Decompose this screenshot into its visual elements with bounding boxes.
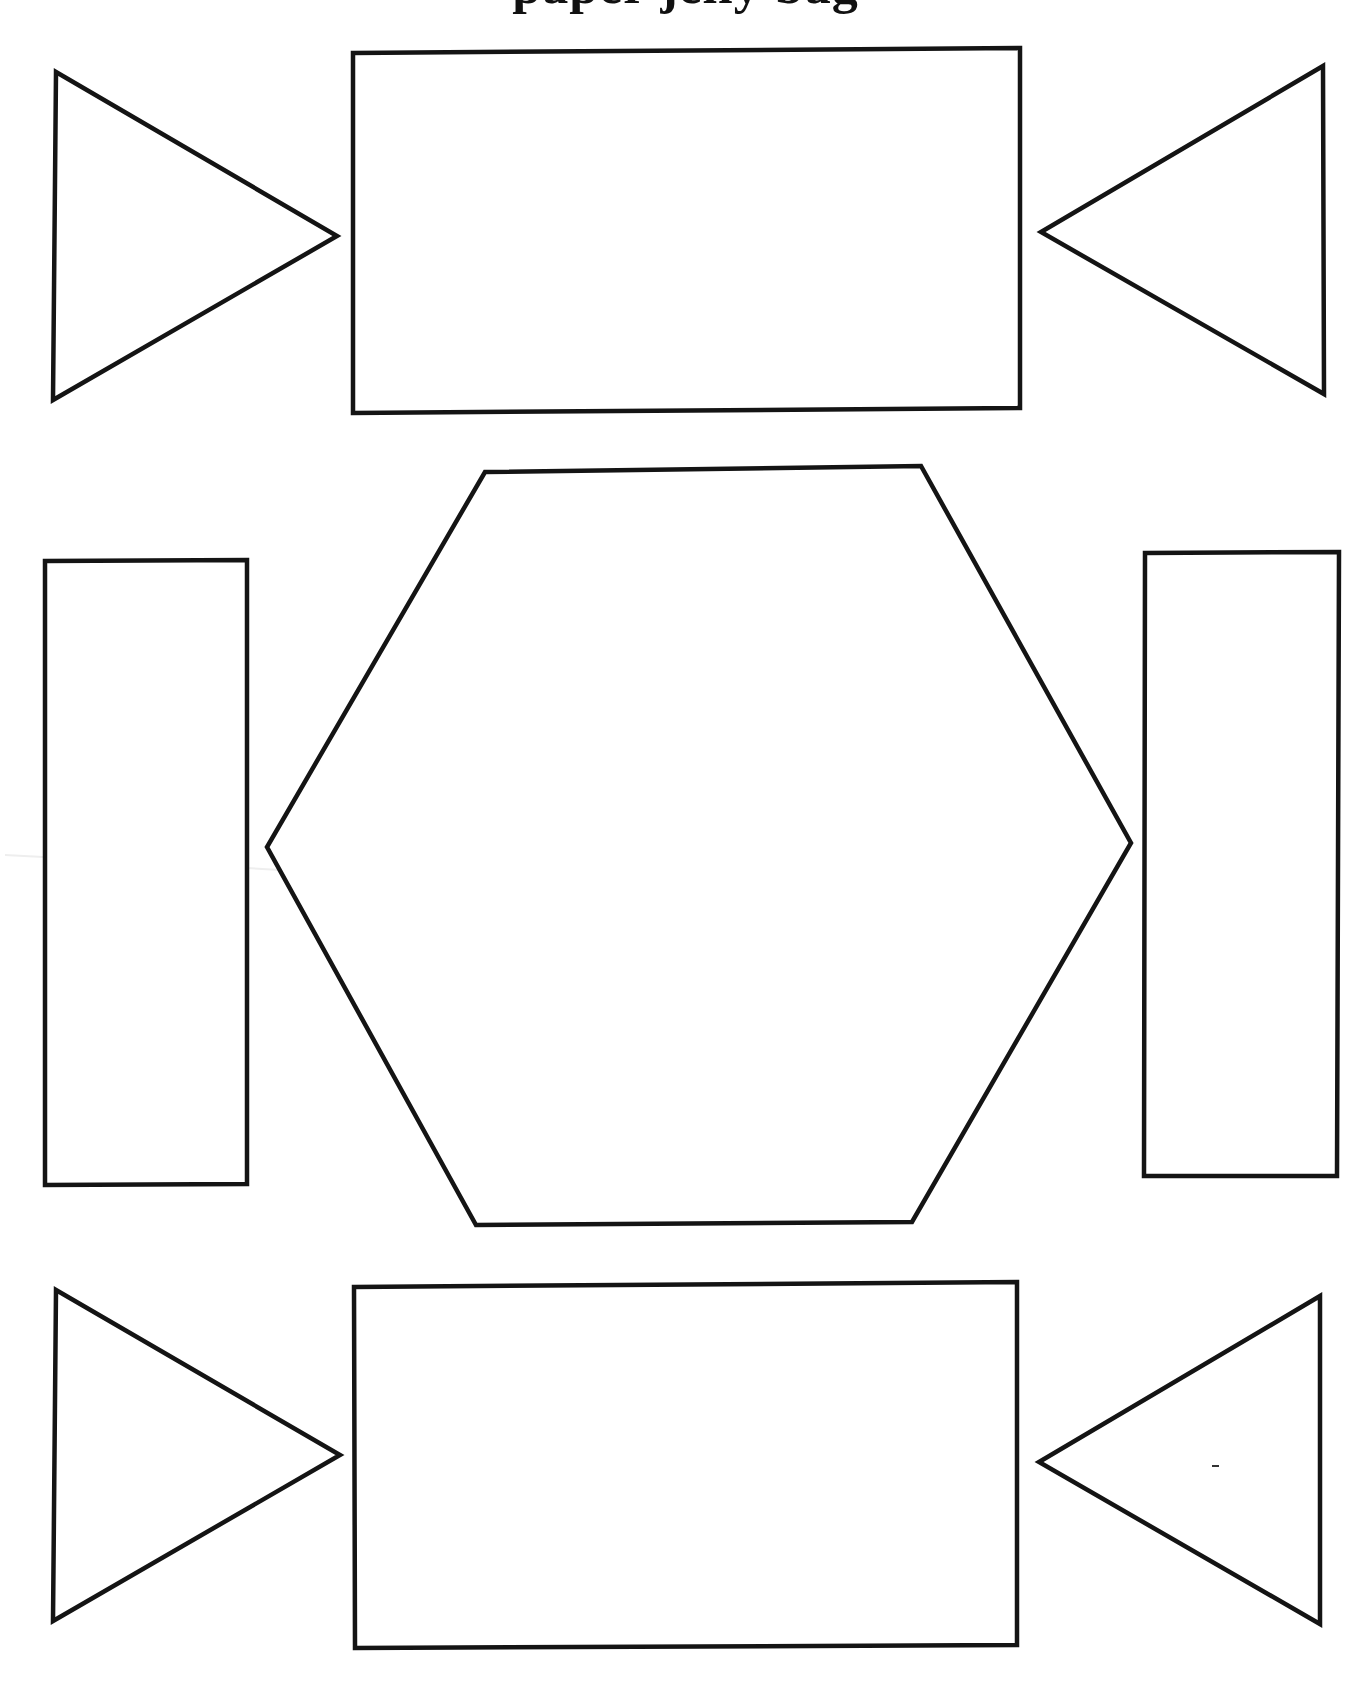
template-sheet — [0, 0, 1371, 1681]
bottom-left-triangle — [53, 1290, 340, 1621]
right-rectangle — [1144, 552, 1339, 1176]
center-hexagon — [267, 466, 1131, 1225]
left-rectangle — [45, 560, 247, 1185]
top-right-triangle — [1041, 66, 1324, 394]
bottom-right-triangle — [1039, 1296, 1320, 1624]
top-left-triangle — [53, 72, 337, 400]
top-rectangle — [353, 48, 1020, 413]
bottom-rectangle — [354, 1282, 1017, 1648]
